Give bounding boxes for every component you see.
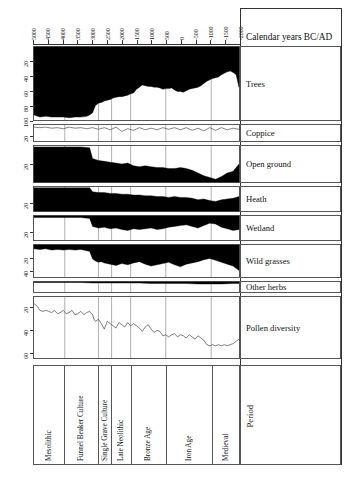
axis-tick-label: 1500 [133,2,140,40]
y-tick [30,61,33,62]
y-tick [30,91,33,92]
panel-plot-open-ground [34,146,239,182]
y-tick-label: 100 [22,115,29,127]
panel-label-text: Open ground [241,159,291,169]
axis-tick [196,40,197,45]
panel-label-wild-grasses: Wild grasses [240,244,341,278]
axis-tick [48,40,49,45]
panel-label-open-ground: Open ground [240,145,341,183]
period-divider [64,365,65,465]
axis-tick-label: -500 [192,2,199,40]
y-tick-label: 20 [22,130,29,142]
y-tick [30,164,33,165]
period-divider [111,365,112,465]
axis-tick [181,40,182,45]
y-tick-label: 80 [22,100,29,112]
y-tick-label: 60 [22,347,29,359]
panel-plot-wetland [34,216,239,240]
y-tick [30,203,33,204]
period-divider [98,365,99,465]
axis-tick-label: 4500 [44,2,51,40]
panel-label-text: Trees [241,79,265,89]
axis-tick [122,40,123,45]
period-divider [166,365,167,465]
period-label-medieval: Medieval [222,369,230,461]
period-divider [212,365,213,465]
axis-tick [225,40,226,45]
y-tick-label: 20 [22,252,29,264]
panel-plot-pollen-diversity [34,297,239,358]
axis-tick [33,40,34,45]
period-label-iron-age: Iron Age [185,369,193,461]
period-label-late-neolithic: Late Neolithic [117,369,125,461]
panel-label-wetland: Wetland [240,215,341,241]
y-tick [30,232,33,233]
axis-tick [166,40,167,45]
axis-tick-label: 2000 [118,2,125,40]
panel-plot-coppice [34,125,239,141]
period-band-label: Period [240,365,341,465]
y-tick [30,136,33,137]
calendar-axis-title: Calendar years BC/AD [246,32,332,42]
axis-tick [210,40,211,45]
period-divider [131,365,132,465]
axis-tick [92,40,93,45]
axis-tick-label: 2500 [104,2,111,40]
axis-tick [77,40,78,45]
y-tick-label: 40 [22,70,29,82]
panel-label-text: Coppice [241,128,275,138]
axis-tick-label: 4000 [59,2,66,40]
y-tick-label: 20 [22,226,29,238]
panel-label-coppice: Coppice [240,124,341,142]
y-tick-label: 40 [22,324,29,336]
axis-tick [107,40,108,45]
figure-right-edge [341,8,342,465]
y-tick [30,271,33,272]
axis-tick [151,40,152,45]
panel-label-text: Heath [241,194,267,204]
pollen-diagram: 5000450040003500300025002000150010005000… [0,0,347,480]
axis-tick-label: -1000 [207,2,214,40]
panel-label-text: Pollen diversity [241,323,300,333]
period-label-bronze-age: Bronze Age [144,369,152,461]
y-tick-label: 20 [22,301,29,313]
panel-plot-wild-grasses [34,245,239,277]
y-tick [30,258,33,259]
y-tick-label: 40 [22,265,29,277]
period-label-funnel-beaker-culture: Funnel Beaker Culture [77,369,85,461]
panel-label-other-herbs: Other herbs [240,281,341,293]
axis-tick [137,40,138,45]
y-tick [30,121,33,122]
period-label-mesolithic: Mesolithic [45,369,53,461]
y-tick [30,353,33,354]
y-tick [30,307,33,308]
axis-tick-label: 5000 [30,2,37,40]
axis-tick-label: 500 [163,2,170,40]
period-label-single-grave-culture: Single Grave Culture [101,369,109,461]
panel-label-trees: Trees [240,46,341,121]
y-tick-label: 20 [22,158,29,170]
axis-tick-label: 3500 [74,2,81,40]
panel-label-text: Wild grasses [241,256,290,266]
axis-tick-label: 1000 [148,2,155,40]
panel-label-text: Other herbs [241,282,286,292]
panel-plot-trees [34,47,239,120]
axis-tick-label: 0 [178,2,185,40]
axis-tick-label: 3000 [89,2,96,40]
y-tick [30,106,33,107]
panel-plot-other-herbs [34,282,239,292]
panel-plot-heath [34,187,239,211]
y-tick [30,76,33,77]
y-tick-label: 20 [22,197,29,209]
y-tick [30,330,33,331]
y-tick-label: 60 [22,85,29,97]
y-tick-label: 20 [22,55,29,67]
panel-label-pollen-diversity: Pollen diversity [240,296,341,359]
figure-top-edge [240,8,341,9]
panel-label-heath: Heath [240,186,341,212]
period-axis-title: Period [245,405,255,427]
axis-tick [63,40,64,45]
axis-tick-label: -1500 [222,2,229,40]
panel-label-text: Wetland [241,223,274,233]
